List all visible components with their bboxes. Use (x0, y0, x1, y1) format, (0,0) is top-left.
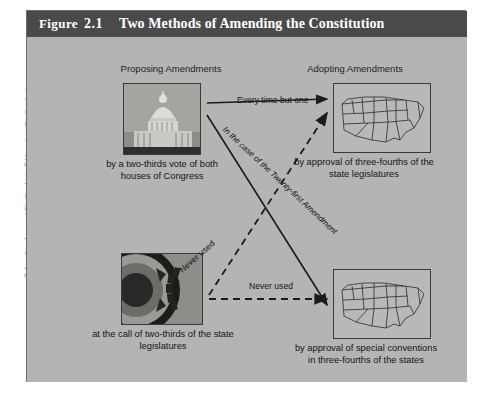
caption-congress: by a two-thirds vote of both houses of C… (99, 159, 225, 182)
connector-label-every-time-but-one: Every time but one (237, 95, 309, 105)
united-states-map-top (333, 83, 431, 153)
caption-state-legislatures-approval: by approval of three-fourths of the stat… (293, 157, 435, 180)
heading-adopting-amendments: Adopting Amendments (295, 63, 415, 74)
figure-title: Two Methods of Amending the Constitution (119, 16, 385, 32)
figure-title-bar: Figure 2.1 Two Methods of Amending the C… (27, 11, 467, 37)
figure-label: Figure (39, 16, 78, 32)
figure-number: 2.1 (84, 16, 103, 32)
united-states-map-bottom (333, 269, 431, 339)
us-capitol-dome-photo (123, 83, 201, 155)
connector-label-never-used-horizontal: Never used (249, 281, 293, 291)
figure-container: Figure 2.1 Two Methods of Amending the C… (26, 10, 466, 382)
heading-proposing-amendments: Proposing Amendments (111, 63, 231, 74)
caption-state-legislatures-call: at the call of two-thirds of the state l… (87, 329, 239, 352)
diagram-canvas: Proposing Amendments Adopting Amendments (27, 37, 467, 382)
caption-state-conventions: by approval of special conventions in th… (293, 343, 439, 366)
